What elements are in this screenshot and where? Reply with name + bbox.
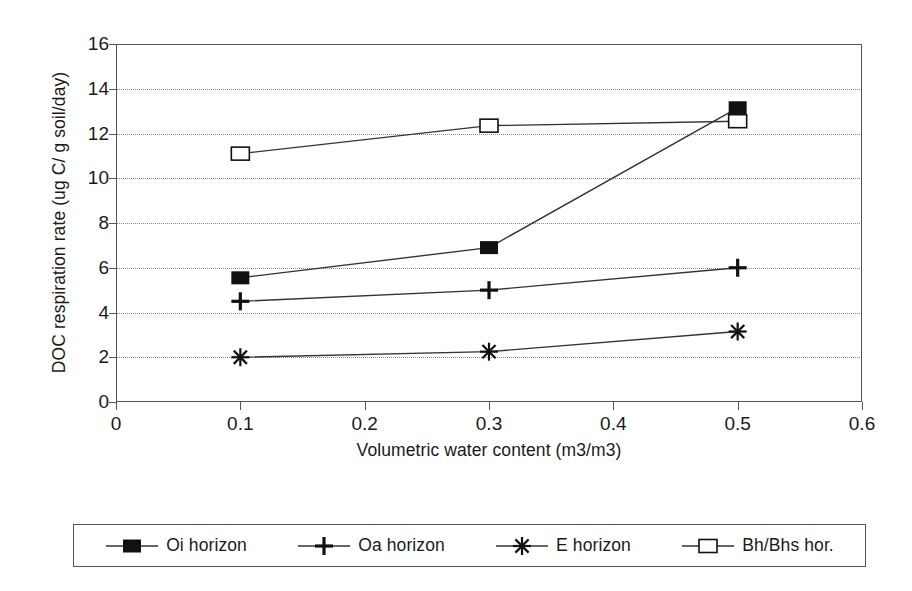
x-tick-mark <box>862 402 863 410</box>
y-tick-mark <box>109 89 116 90</box>
y-tick-label: 0 <box>98 391 109 413</box>
plot-area: 0246810121416 00.10.20.30.40.50.6 <box>116 44 862 402</box>
y-tick-label: 4 <box>98 302 109 324</box>
data-point-asterisk <box>480 343 498 361</box>
data-point-plus <box>480 281 498 299</box>
legend: Oi horizonOa horizonE horizonBh/Bhs hor. <box>73 524 866 567</box>
legend-label: Oa horizon <box>358 535 445 556</box>
x-tick-mark <box>489 402 490 410</box>
legend-marker-open-square-icon <box>681 535 735 557</box>
y-tick-label: 8 <box>98 212 109 234</box>
legend-item-1[interactable]: Oa horizon <box>297 535 445 557</box>
data-point-filled-square <box>123 539 141 552</box>
y-tick-label: 6 <box>98 257 109 279</box>
legend-item-3[interactable]: Bh/Bhs hor. <box>681 535 834 557</box>
x-tick-label: 0.2 <box>351 413 377 435</box>
data-point-filled-square <box>480 241 498 254</box>
y-tick-label: 2 <box>98 346 109 368</box>
data-point-asterisk <box>729 323 747 341</box>
y-tick-label: 16 <box>88 33 109 55</box>
data-point-filled-square <box>231 271 249 284</box>
y-tick-mark <box>109 134 116 135</box>
data-point-asterisk <box>231 348 249 366</box>
data-point-asterisk <box>513 537 531 555</box>
data-point-filled-square <box>729 101 747 114</box>
x-tick-mark <box>613 402 614 410</box>
legend-marker-plus-icon <box>297 535 351 557</box>
data-point-plus <box>729 259 747 277</box>
data-point-open-square <box>480 119 498 132</box>
chart-figure: DOC respiration rate (ug C/ g soil/day) … <box>0 0 912 591</box>
y-tick-mark <box>109 178 116 179</box>
legend-item-0[interactable]: Oi horizon <box>105 535 247 557</box>
x-tick-label: 0.5 <box>724 413 750 435</box>
legend-label: E horizon <box>556 535 631 556</box>
x-tick-label: 0.1 <box>227 413 253 435</box>
legend-item-2[interactable]: E horizon <box>495 535 631 557</box>
x-tick-mark <box>365 402 366 410</box>
series-plot <box>116 44 862 402</box>
y-tick-mark <box>109 44 116 45</box>
data-point-open-square <box>729 115 747 128</box>
legend-marker-asterisk-icon <box>495 535 549 557</box>
x-tick-label: 0.6 <box>849 413 875 435</box>
data-point-plus <box>231 292 249 310</box>
x-tick-label: 0.4 <box>600 413 626 435</box>
x-tick-mark <box>738 402 739 410</box>
y-tick-label: 14 <box>88 78 109 100</box>
y-tick-mark <box>109 268 116 269</box>
y-axis-title: DOC respiration rate (ug C/ g soil/day) <box>49 33 70 413</box>
data-point-plus <box>315 537 333 555</box>
x-tick-label: 0 <box>111 413 122 435</box>
x-tick-mark <box>116 402 117 410</box>
legend-label: Bh/Bhs hor. <box>742 535 834 556</box>
y-tick-label: 12 <box>88 123 109 145</box>
x-tick-mark <box>240 402 241 410</box>
legend-label: Oi horizon <box>166 535 247 556</box>
data-point-open-square <box>231 147 249 160</box>
y-tick-mark <box>109 223 116 224</box>
x-tick-label: 0.3 <box>476 413 502 435</box>
y-tick-mark <box>109 402 116 403</box>
data-point-open-square <box>699 539 717 552</box>
y-tick-mark <box>109 357 116 358</box>
y-tick-label: 10 <box>88 167 109 189</box>
y-tick-mark <box>109 313 116 314</box>
x-axis-title: Volumetric water content (m3/m3) <box>116 440 862 461</box>
legend-marker-filled-square-icon <box>105 535 159 557</box>
